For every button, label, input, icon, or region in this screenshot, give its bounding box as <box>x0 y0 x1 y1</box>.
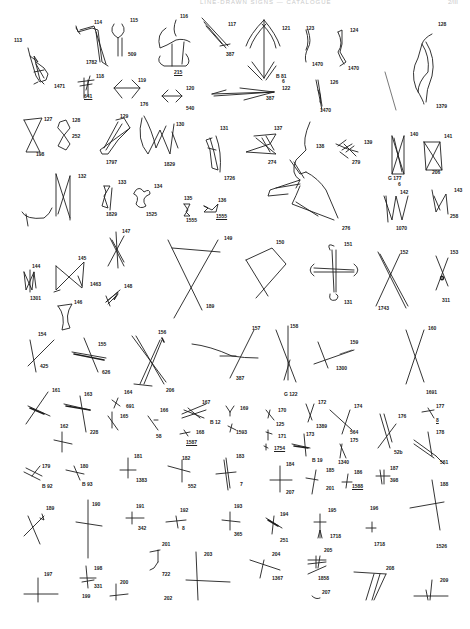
figure-188-drawing <box>410 480 444 530</box>
figure-113-drawing <box>28 48 48 84</box>
reference-number: 398 <box>390 478 398 483</box>
figure-number: 159 <box>350 340 358 345</box>
figure-number: 119 <box>138 78 146 83</box>
reference-number: 1525 <box>146 212 157 217</box>
reference-number: 387 <box>236 376 244 381</box>
figure-185-drawing <box>306 470 318 494</box>
reference-number: 206 <box>432 170 440 175</box>
figure-201-drawing <box>150 550 160 570</box>
reference-number: 1782 <box>86 60 97 65</box>
reference-number: 552 <box>188 484 196 489</box>
figure-number: 167 <box>202 400 210 405</box>
figure-number: 145 <box>78 256 86 261</box>
figure-166-drawing <box>148 416 158 430</box>
reference-number: 691 <box>126 404 134 409</box>
figure-200-drawing <box>110 584 128 600</box>
reference-number: 1797 <box>106 160 117 165</box>
reference-number: 1471 <box>54 84 65 89</box>
figure-number: 188 <box>440 482 448 487</box>
reference-number: 365 <box>234 532 242 537</box>
figure-number: 122 <box>282 86 290 91</box>
catalogue-page: LINE-DRAWN SIGNS — CATALOGUE 2/III <box>0 0 470 629</box>
figure-number: 172 <box>318 400 326 405</box>
figure-number: 158 <box>290 324 298 329</box>
figure-164-drawing <box>112 398 120 408</box>
reference-number: 58 <box>156 434 162 439</box>
figure-160-drawing <box>406 330 424 384</box>
figure-183-drawing <box>216 458 236 490</box>
figure-number: 208 <box>386 566 394 571</box>
figure-141-drawing <box>424 142 442 170</box>
reference-number: 641 <box>84 94 92 99</box>
figure-158-drawing <box>276 326 296 382</box>
figure-number: 117 <box>228 22 236 27</box>
reference-number: 1726 <box>224 176 235 181</box>
figure-number: 130 <box>176 122 184 127</box>
figure-number: 204 <box>272 552 280 557</box>
reference-number: 311 <box>442 298 450 303</box>
figure-number: 166 <box>160 408 168 413</box>
figure-117-drawing <box>202 18 230 48</box>
figure-number: 149 <box>224 236 232 241</box>
figure-number: 180 <box>80 464 88 469</box>
reference-number: 8 <box>436 418 439 423</box>
figure-134-drawing <box>134 188 150 207</box>
figure-133-drawing <box>102 186 112 210</box>
figure-116-drawing <box>159 20 190 66</box>
figure-number: 209 <box>440 578 448 583</box>
reference-number: 564 <box>350 430 358 435</box>
reference-number: 258 <box>450 214 458 219</box>
figure-208-drawing <box>354 572 386 600</box>
reference-number: 1691 <box>426 390 437 395</box>
figure-number: 115 <box>130 18 138 23</box>
figure-number: 200 <box>120 580 128 585</box>
reference-number: 722 <box>162 572 170 577</box>
figure-number: 174 <box>354 404 362 409</box>
figure-173-drawing <box>292 434 310 456</box>
figure-number: 138 <box>316 144 324 149</box>
reference-number: 387 <box>266 96 274 101</box>
figure-number: 190 <box>92 502 100 507</box>
reference-number: 6 <box>282 79 285 84</box>
reference-number: 206 <box>166 388 174 393</box>
figure-151-drawing <box>310 245 358 301</box>
figure-number: 139 <box>364 140 372 145</box>
figure-number: 171 <box>278 434 286 439</box>
reference-number: 1367 <box>272 576 283 581</box>
reference-number: 176 <box>140 102 148 107</box>
figure-189-drawing <box>24 514 44 544</box>
figure-number: 132 <box>78 174 86 179</box>
reference-number: 561 <box>440 460 448 465</box>
figure-123-drawing <box>305 30 310 62</box>
figure-number: 183 <box>236 454 244 459</box>
reference-number: 387 <box>226 52 234 57</box>
figure-140-drawing <box>392 136 404 174</box>
reference-number: 1526 <box>436 544 447 549</box>
figure-number: 133 <box>118 180 126 185</box>
reference-number: 228 <box>90 430 98 435</box>
figure-182-drawing <box>168 460 190 482</box>
reference-number: 201 <box>326 486 334 491</box>
reference-number: 1470 <box>320 108 331 113</box>
figure-number: 124 <box>350 28 358 33</box>
figure-number: 146 <box>74 300 82 305</box>
figure-number: 153 <box>450 250 458 255</box>
figure-number: 205 <box>324 548 332 553</box>
figure-121-drawing <box>246 20 280 80</box>
figure-148-drawing <box>106 290 120 306</box>
reference-number: 1555 <box>186 218 197 223</box>
reference-number: 198 <box>36 152 44 157</box>
reference-number: 1754 <box>274 446 285 451</box>
reference-number: 342 <box>138 526 146 531</box>
reference-number: 1070 <box>396 226 407 231</box>
reference-number: 131 <box>344 300 352 305</box>
figure-127-drawing <box>24 118 42 152</box>
figure-number: 150 <box>276 240 284 245</box>
figure-145-drawing <box>54 262 84 292</box>
figure-128b-drawing <box>58 120 70 150</box>
figure-number: 202 <box>164 596 172 601</box>
figure-159-drawing <box>314 342 354 368</box>
figure-144-drawing <box>24 270 36 292</box>
reference-number: 279 <box>352 160 360 165</box>
figure-number: 175 <box>350 438 358 443</box>
